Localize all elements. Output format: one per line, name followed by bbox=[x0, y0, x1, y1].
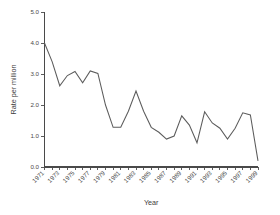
x-tick-label: 1995 bbox=[214, 169, 229, 184]
x-axis-tick-labels: 1971197319751977197919811983198519871989… bbox=[31, 169, 260, 184]
x-tick-label: 1977 bbox=[76, 169, 91, 184]
data-series-line bbox=[45, 43, 259, 161]
x-tick-label: 1983 bbox=[122, 169, 137, 184]
y-axis-tick-labels: 0.01.02.03.04.05.0 bbox=[30, 8, 39, 170]
line-chart: 0.01.02.03.04.05.0 197119731975197719791… bbox=[0, 0, 280, 215]
x-tick-label: 1985 bbox=[137, 169, 152, 184]
x-axis-title: Year bbox=[144, 198, 159, 207]
x-tick-label: 1971 bbox=[31, 169, 46, 184]
y-tick-label: 5.0 bbox=[30, 8, 39, 15]
y-tick-label: 0.0 bbox=[30, 163, 39, 170]
x-tick-label: 1973 bbox=[46, 169, 61, 184]
chart-page: 0.01.02.03.04.05.0 197119731975197719791… bbox=[0, 0, 280, 215]
x-tick-label: 1997 bbox=[229, 169, 244, 184]
y-tick-label: 3.0 bbox=[30, 70, 39, 77]
x-tick-label: 1989 bbox=[168, 169, 183, 184]
x-tick-label: 1999 bbox=[244, 169, 259, 184]
x-tick-label: 1993 bbox=[198, 169, 213, 184]
y-axis-title: Rate per million bbox=[9, 65, 18, 115]
y-tick-label: 1.0 bbox=[30, 132, 39, 139]
x-tick-label: 1975 bbox=[61, 169, 76, 184]
y-tick-label: 2.0 bbox=[30, 101, 39, 108]
x-tick-label: 1979 bbox=[92, 169, 107, 184]
y-tick-label: 4.0 bbox=[30, 39, 39, 46]
x-tick-label: 1991 bbox=[183, 169, 198, 184]
x-tick-label: 1981 bbox=[107, 169, 122, 184]
x-tick-label: 1987 bbox=[153, 169, 168, 184]
